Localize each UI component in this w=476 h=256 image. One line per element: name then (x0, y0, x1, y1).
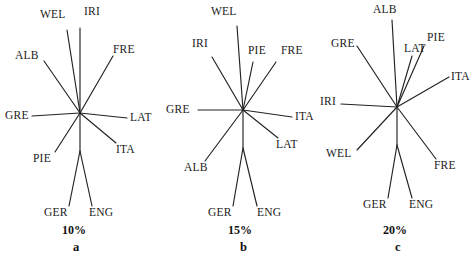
scale-label-c: 20% (383, 224, 407, 236)
panel-letter-c: c (395, 241, 401, 254)
taxon-label-c-wel: WEL (326, 148, 352, 160)
edge-c-eng (397, 145, 412, 198)
edge-c-pie (397, 46, 424, 107)
taxon-label-c-iri: IRI (320, 96, 336, 108)
edge-c-ger (388, 145, 397, 198)
taxon-label-c-gre: GRE (331, 38, 355, 50)
edge-c-fre (397, 107, 436, 159)
taxon-label-c-eng: ENG (409, 199, 433, 211)
edge-c-alb (392, 20, 397, 107)
edge-c-gre (357, 46, 397, 107)
edge-c-iri (341, 104, 397, 107)
network-edges-c (0, 0, 476, 256)
taxon-label-c-fre: FRE (434, 160, 456, 172)
figure-canvas: WELIRIFRELATITAENGGERPIEGREALB10%aWELIRI… (0, 0, 476, 256)
taxon-label-c-ita: ITA (451, 71, 470, 83)
edge-c-wel (357, 107, 397, 150)
taxon-label-c-lat: LAT (404, 43, 426, 55)
taxon-label-c-alb: ALB (373, 4, 397, 16)
taxon-label-c-pie: PIE (427, 32, 445, 44)
taxon-label-c-ger: GER (363, 199, 387, 211)
